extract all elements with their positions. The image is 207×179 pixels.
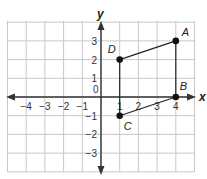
y-axis-label: y <box>96 7 105 21</box>
point-label-a: A <box>181 26 189 38</box>
segment-bc <box>120 97 176 116</box>
y-tick-label: 3 <box>91 36 97 47</box>
x-tick-label: −2 <box>58 101 70 112</box>
y-axis-down-arrow-icon <box>98 166 105 175</box>
y-tick-label: 2 <box>91 55 97 66</box>
y-tick-label: −1 <box>86 111 98 122</box>
point-label-d: D <box>108 43 116 55</box>
point-c <box>116 112 123 119</box>
x-axis-label: x <box>198 90 207 104</box>
point-d <box>116 56 123 63</box>
axes: xy0 <box>6 7 207 175</box>
point-label-c: C <box>124 120 132 132</box>
point-b <box>173 94 180 101</box>
coordinate-plane: xy0 −4−3−2−11234321−1−2−3 ABCD <box>0 0 207 179</box>
point-a <box>173 38 180 45</box>
y-tick-label: 1 <box>91 73 97 84</box>
x-tick-label: −3 <box>39 101 51 112</box>
segment-da <box>120 41 176 60</box>
y-tick-label: −2 <box>86 129 98 140</box>
y-tick-label: −3 <box>86 148 98 159</box>
origin-label: 0 <box>93 84 99 95</box>
x-tick-label: −4 <box>20 101 32 112</box>
x-tick-label: 4 <box>173 101 179 112</box>
point-label-b: B <box>180 80 187 92</box>
